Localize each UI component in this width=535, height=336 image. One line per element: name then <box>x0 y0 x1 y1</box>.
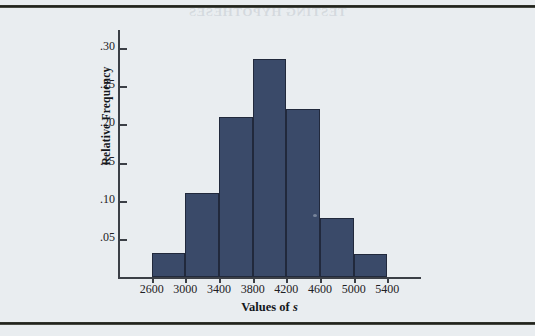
y-tick: .15 <box>120 163 127 165</box>
y-tick-label: .05 <box>100 230 115 245</box>
histogram-bar <box>253 59 287 277</box>
y-tick-label: .10 <box>100 192 115 207</box>
x-axis-title: Values of s <box>118 300 421 315</box>
x-axis-title-variable: s <box>293 300 298 314</box>
y-axis-line <box>118 30 120 279</box>
x-tick-label: 3000 <box>173 282 197 297</box>
x-tick-label: 3400 <box>207 282 231 297</box>
histogram-bar <box>320 218 354 277</box>
x-axis-line <box>118 277 421 279</box>
x-tick-label: 3800 <box>241 282 265 297</box>
y-tick: .20 <box>120 124 127 126</box>
y-tick-label: .30 <box>100 39 115 54</box>
x-tick-label: 4600 <box>308 282 332 297</box>
histogram-bar <box>185 193 219 277</box>
histogram-bar <box>286 109 320 277</box>
y-tick: .25 <box>120 86 127 88</box>
x-axis-title-prefix: Values of <box>241 300 293 314</box>
histogram-bar <box>219 117 253 277</box>
y-tick: .05 <box>120 239 127 241</box>
histogram-bar <box>354 254 388 277</box>
figure-panel: TESTING HYPOTHESES .05.10.15.20.25.30 26… <box>0 0 535 336</box>
x-tick-label: 5400 <box>375 282 399 297</box>
x-tick-label: 2600 <box>140 282 164 297</box>
x-tick-label: 4200 <box>274 282 298 297</box>
x-tick-label: 5000 <box>342 282 366 297</box>
histogram-bar <box>152 253 186 277</box>
y-tick: .10 <box>120 201 127 203</box>
y-axis-title: Relative Frequency <box>100 67 112 166</box>
histogram-plot: .05.10.15.20.25.30 260030003400380042004… <box>0 0 535 336</box>
y-tick: .30 <box>120 48 127 50</box>
